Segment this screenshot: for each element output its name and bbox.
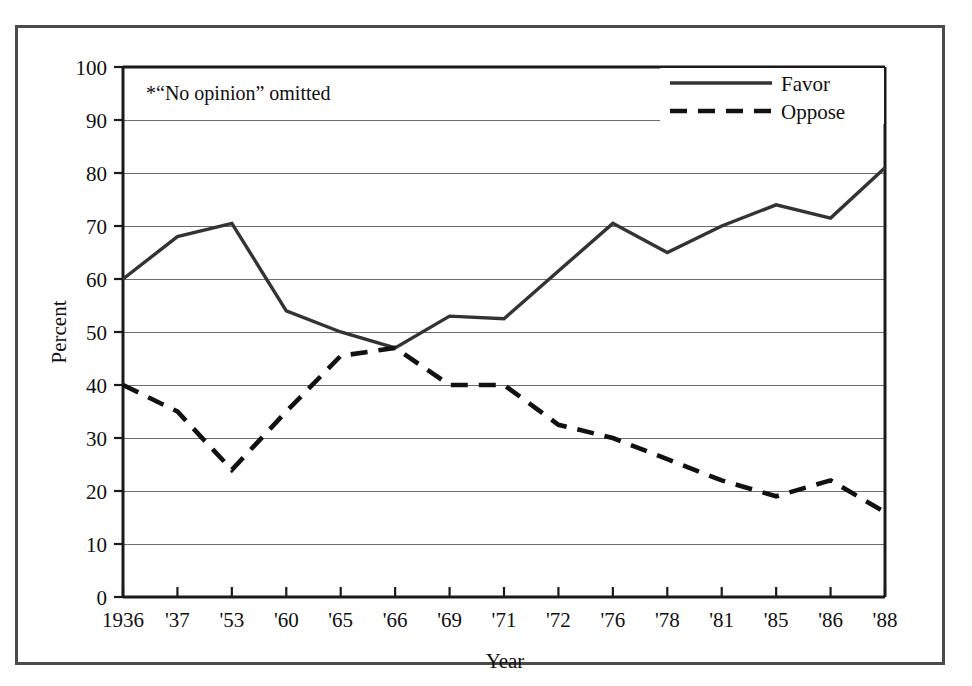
y-tick-label: 60 — [86, 268, 107, 292]
x-tick-label: '37 — [165, 608, 190, 632]
x-tick-label: 1936 — [102, 608, 144, 632]
line-chart: 0102030405060708090100 1936'37'53'60'65'… — [0, 0, 972, 686]
x-tick-label: '53 — [219, 608, 244, 632]
y-tick-label: 20 — [86, 480, 107, 504]
x-tick-label: '78 — [655, 608, 680, 632]
legend-label-oppose: Oppose — [781, 100, 845, 124]
x-tick-label: '72 — [546, 608, 571, 632]
legend-label-favor: Favor — [781, 72, 830, 96]
legend-background — [660, 68, 884, 124]
y-tick-label: 70 — [86, 215, 107, 239]
x-tick-label: '88 — [873, 608, 898, 632]
gridlines-group — [123, 120, 885, 544]
x-tick-label: '86 — [818, 608, 843, 632]
y-tick-label: 40 — [86, 374, 107, 398]
y-tick-label: 0 — [97, 586, 108, 610]
y-tick-label: 90 — [86, 109, 107, 133]
x-tick-label: '81 — [709, 608, 734, 632]
no-opinion-annotation: *“No opinion” omitted — [146, 82, 330, 105]
series-line-oppose — [123, 348, 885, 512]
y-axis-title: Percent — [47, 300, 71, 363]
x-tick-label: '85 — [764, 608, 789, 632]
x-tick-label: '76 — [600, 608, 625, 632]
y-tick-label: 100 — [76, 56, 108, 80]
x-axis-title: Year — [486, 649, 525, 673]
y-tick-label: 80 — [86, 162, 107, 186]
y-tick-labels: 0102030405060708090100 — [76, 56, 108, 610]
series-line-favor — [123, 168, 885, 348]
x-tick-labels: 1936'37'53'60'65'66'69'71'72'76'78'81'85… — [102, 608, 897, 632]
x-tick-label: '69 — [437, 608, 462, 632]
x-tick-label: '65 — [328, 608, 353, 632]
chart-legend: Favor Oppose — [660, 68, 884, 124]
y-tick-label: 30 — [86, 427, 107, 451]
y-tick-label: 10 — [86, 533, 107, 557]
x-tick-label: '60 — [274, 608, 299, 632]
x-tick-label: '71 — [492, 608, 517, 632]
chart-svg: 0102030405060708090100 1936'37'53'60'65'… — [0, 0, 972, 686]
y-tick-label: 50 — [86, 321, 107, 345]
x-tick-label: '66 — [383, 608, 408, 632]
